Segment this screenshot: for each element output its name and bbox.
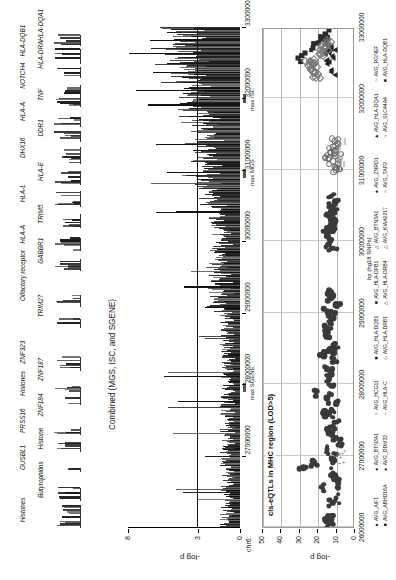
eqtl-point-circleF <box>331 437 336 442</box>
eqtl-point-plus: + <box>336 461 342 465</box>
gene-exon-bar <box>65 492 80 494</box>
manhattan-spike <box>233 417 240 418</box>
legend-label: AVG_HLA-C <box>382 381 388 410</box>
manhattan-spike <box>213 167 240 168</box>
gene-cluster-line <box>80 319 81 328</box>
legend-marker-squareF: ■ <box>372 300 381 306</box>
gene-exon-bar <box>64 92 80 94</box>
eqtl-vertical-gridline <box>263 97 353 98</box>
eqtl-point-circleF <box>301 466 306 471</box>
gene-exon-bar <box>64 72 80 74</box>
manhattan-spike <box>228 470 240 471</box>
legend-label: AVG_SLC44A4 <box>382 97 388 132</box>
legend-column: △AVG_BTN3A1△AVG_KIAA0317 <box>372 207 390 250</box>
manhattan-spike <box>208 177 240 178</box>
legend-label: AVG_HLA-DQA1 <box>373 93 379 132</box>
chromosome-label: chr6: <box>245 536 252 552</box>
eqtl-x-tick-label: 26000000 <box>358 513 365 542</box>
legend-marker-squareF: ■ <box>381 522 390 528</box>
manhattan-y-axis-label: -log p <box>180 553 200 562</box>
legend-marker-squareF: ■ <box>381 78 390 84</box>
gene-label: HLA-A <box>19 225 26 244</box>
gene-cluster-line <box>80 468 81 472</box>
manhattan-peak <box>148 104 240 105</box>
eqtl-y-tick-label: 10 <box>332 536 339 552</box>
eqtl-point-dash <box>342 154 343 161</box>
manhattan-peak <box>184 286 240 287</box>
gene-label: PRSS16 <box>19 408 26 433</box>
legend-label: AVG_DDM32 <box>382 435 388 465</box>
legend-item: ■AVG_HLA-DPB1 <box>372 260 381 305</box>
eqtl-point-circleF <box>329 355 334 360</box>
gene-label: HLA-E <box>37 162 44 181</box>
manhattan-spike <box>192 125 240 126</box>
gene-exon-bar <box>66 153 80 155</box>
gene-label: Olfactory receptor <box>19 250 26 301</box>
gene-exon-bar <box>65 442 80 444</box>
eqtl-point-circleF <box>334 303 340 309</box>
legend-column: ●AVG_AIF1■AVG_ABHD16A <box>372 485 390 528</box>
manhattan-spike <box>220 188 240 189</box>
manhattan-plot-area <box>128 27 240 527</box>
gene-cluster-line <box>80 49 81 63</box>
x-axis-tick-mark <box>242 241 246 242</box>
manhattan-spike <box>173 433 240 434</box>
legend-column: ●AVG_BTN3A1●AVG_DDM32 <box>372 433 390 472</box>
eqtl-point-circleF <box>334 247 339 252</box>
legend-marker-circleO: ○ <box>372 78 381 84</box>
gene-exon-bar <box>61 195 80 196</box>
legend-label: AVG_KIAA0317 <box>382 207 388 243</box>
eqtl-point-circleF <box>332 383 337 388</box>
manhattan-spike <box>220 344 240 345</box>
manhattan-y-tick-label: 0 <box>236 536 243 548</box>
manhattan-panel-title: Combined (MGS, ISC, and SGENE) <box>108 299 117 430</box>
gene-exon-bar <box>72 386 80 387</box>
manhattan-spike <box>213 302 240 303</box>
gene-cluster-line <box>80 505 81 528</box>
gene-cluster-line <box>80 488 81 501</box>
manhattan-spike <box>167 63 240 64</box>
eqtl-point-dash <box>337 145 338 151</box>
legend-item: ●AVG_AIF1 <box>372 485 381 528</box>
gene-exon-bar <box>55 48 80 50</box>
eqtl-point-triF <box>326 59 331 65</box>
gene-cluster-line <box>80 35 81 46</box>
gene-exon-bar <box>64 268 80 270</box>
x-axis-tick-label: 33000000 <box>244 0 251 26</box>
legend-label: AVG_HCG11 <box>373 380 379 410</box>
x-axis-tick-mark <box>242 170 246 171</box>
manhattan-y-tick <box>198 529 199 533</box>
gene-exon-bar <box>63 57 80 59</box>
gene-label: HLA-DRA <box>37 41 44 69</box>
eqtl-x-tick-label: 28000000 <box>358 370 365 399</box>
gene-exon-bar <box>59 496 80 498</box>
legend-marker-triF: ▲ <box>372 133 381 139</box>
gene-label: ZNF187 <box>37 358 44 381</box>
legend-label: AVG_BTN3A1 <box>373 211 379 243</box>
gene-exon-bar <box>56 99 80 100</box>
gene-exon-bar <box>54 123 80 125</box>
gene-label: GUSBL1 <box>19 445 26 470</box>
eqtl-vertical-gridline <box>263 240 353 241</box>
manhattan-spike <box>209 292 240 293</box>
manhattan-spike <box>226 490 240 491</box>
gene-exon-bar <box>63 219 80 220</box>
gene-exon-bar <box>69 159 80 160</box>
gene-exon-bar <box>61 44 80 45</box>
manhattan-y-tick-label: 3 <box>194 536 201 548</box>
gene-exon-bar <box>65 397 80 399</box>
manhattan-peak <box>129 53 240 54</box>
eqtl-point-circleF <box>334 399 339 404</box>
gene-label: TRIM27 <box>37 295 44 318</box>
manhattan-spike <box>230 230 241 231</box>
manhattan-spike <box>211 281 241 282</box>
eqtl-point-circleF <box>335 345 340 350</box>
eqtl-point-circleF <box>335 207 340 212</box>
gene-exon-bar <box>55 266 80 267</box>
eqtl-point-circleF <box>325 298 331 304</box>
legend-label: AVG_ZNRD1 <box>373 158 379 188</box>
legend-marker-circleO: ○ <box>381 189 390 195</box>
manhattan-spike <box>198 157 240 158</box>
eqtl-y-tick-label: 50 <box>258 536 265 552</box>
manhattan-peak <box>150 40 240 41</box>
